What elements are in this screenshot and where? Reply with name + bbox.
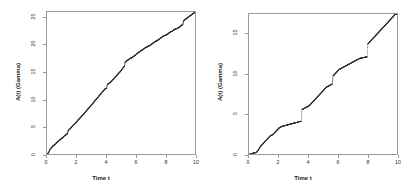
x-tick-mark	[278, 155, 279, 158]
y-tick-mark	[43, 44, 46, 45]
y-tick-label: 15	[31, 65, 36, 79]
x-tick-mark	[398, 155, 399, 158]
y-tick-label: 0	[31, 148, 36, 162]
x-tick-label: 6	[129, 160, 143, 165]
chart-panel-right: 051015 0246810 Time t A(t) (Gamma)	[202, 0, 404, 193]
x-tick-label: 8	[159, 160, 173, 165]
x-tick-mark	[368, 155, 369, 158]
x-tick-mark	[76, 155, 77, 158]
x-axis-title-right: Time t	[202, 175, 404, 181]
y-tick-mark	[245, 114, 248, 115]
x-tick-label: 10	[391, 160, 404, 165]
x-tick-label: 2	[69, 160, 83, 165]
x-tick-mark	[166, 155, 167, 158]
x-tick-label: 8	[361, 160, 375, 165]
x-tick-mark	[308, 155, 309, 158]
x-tick-mark	[196, 155, 197, 158]
y-tick-mark	[43, 127, 46, 128]
y-tick-label: 5	[233, 107, 238, 121]
x-tick-mark	[106, 155, 107, 158]
x-tick-mark	[338, 155, 339, 158]
x-tick-label: 4	[99, 160, 113, 165]
y-tick-label: 25	[31, 9, 36, 23]
x-tick-mark	[136, 155, 137, 158]
figure-container: 0510152025 0246810 Time t A(t) (Gamma) 0…	[0, 0, 404, 193]
x-tick-label: 0	[39, 160, 53, 165]
x-axis-title-left: Time t	[0, 175, 202, 181]
y-tick-mark	[245, 74, 248, 75]
chart-panel-left: 0510152025 0246810 Time t A(t) (Gamma)	[0, 0, 202, 193]
x-tick-mark	[248, 155, 249, 158]
y-tick-label: 15	[233, 26, 238, 40]
x-tick-mark	[46, 155, 47, 158]
y-tick-label: 20	[31, 37, 36, 51]
y-tick-mark	[245, 33, 248, 34]
y-tick-mark	[43, 100, 46, 101]
x-tick-label: 2	[271, 160, 285, 165]
data-path-left	[47, 12, 195, 154]
y-tick-label: 10	[233, 66, 238, 80]
plot-canvas-right	[249, 14, 397, 154]
x-tick-label: 10	[189, 160, 203, 165]
x-tick-label: 6	[331, 160, 345, 165]
y-tick-label: 0	[233, 148, 238, 162]
plot-frame-left	[46, 11, 196, 155]
y-tick-label: 10	[31, 92, 36, 106]
y-axis-title-right: A(t) (Gamma)	[217, 52, 223, 112]
x-tick-label: 4	[301, 160, 315, 165]
y-axis-title-left: A(t) (Gamma)	[15, 52, 21, 112]
data-path-right	[249, 14, 397, 154]
x-tick-label: 0	[241, 160, 255, 165]
y-tick-mark	[43, 72, 46, 73]
y-tick-mark	[43, 17, 46, 18]
plot-canvas-left	[47, 12, 195, 154]
plot-frame-right	[248, 13, 398, 155]
y-tick-label: 5	[31, 120, 36, 134]
